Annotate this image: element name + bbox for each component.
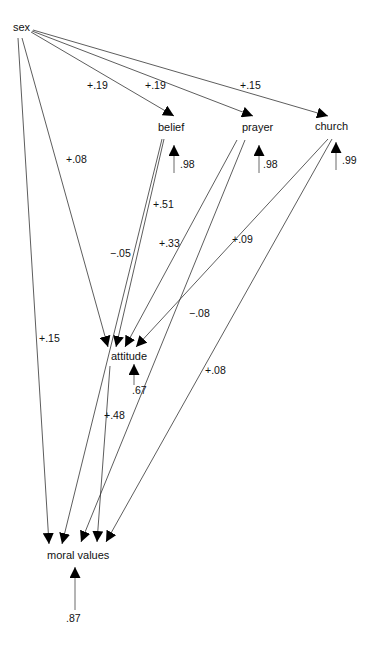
coef-belief-attitude: +.51: [153, 198, 174, 210]
edge-attitude-moral-values: [97, 366, 110, 542]
coef-sex-attitude: +.08: [66, 153, 87, 165]
node-sex: sex: [13, 21, 31, 33]
node-church: church: [315, 120, 348, 132]
coef-sex-belief: +.19: [87, 79, 108, 91]
error-moral-values: .87: [66, 612, 81, 624]
error-belief: .98: [180, 158, 195, 170]
coef-attitude-moral-values: +.48: [104, 409, 125, 421]
coef-sex-prayer: +.19: [145, 79, 166, 91]
edge-sex-moral-values: [18, 38, 49, 544]
node-belief: belief: [158, 121, 185, 133]
path-diagram: sex belief prayer church attitude moral …: [0, 0, 377, 646]
edge-belief-moral-values: [62, 139, 162, 544]
error-church: .99: [342, 154, 357, 166]
coef-church-moral-values: +.08: [205, 364, 226, 376]
error-prayer: .98: [263, 158, 278, 170]
error-attitude: .67: [132, 384, 147, 396]
coef-prayer-moral-values: −.08: [189, 307, 210, 319]
edge-prayer-attitude: [125, 140, 237, 347]
node-prayer: prayer: [242, 121, 274, 133]
coef-sex-church: +.15: [240, 79, 261, 91]
edge-belief-attitude: [116, 139, 164, 347]
edge-sex-belief: [31, 32, 174, 116]
edge-church-moral-values: [106, 139, 332, 542]
node-moral-values: moral values: [47, 549, 110, 561]
node-attitude: attitude: [111, 350, 147, 362]
coef-prayer-attitude: +.33: [159, 237, 180, 249]
edge-sex-prayer: [32, 31, 253, 116]
edge-sex-church: [33, 30, 328, 116]
coef-sex-moral-values: +.15: [39, 332, 60, 344]
coef-church-attitude: +.09: [232, 233, 253, 245]
coef-belief-moral-values: −.05: [110, 247, 131, 259]
